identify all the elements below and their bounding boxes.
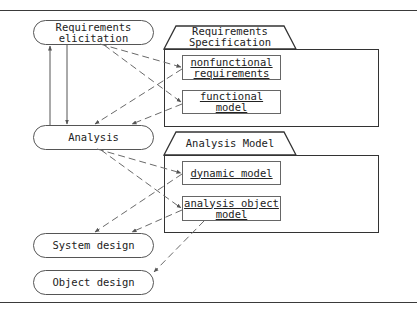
- top-rule: [0, 10, 417, 11]
- analysis-object-model-artifact[interactable]: analysis object model: [182, 196, 281, 221]
- requirements-specification-title: Requirements Specification: [176, 26, 284, 48]
- nonfunctional-requirements-artifact[interactable]: nonfunctional requirements: [182, 55, 281, 80]
- analysis-object-model-line2: model: [216, 209, 248, 220]
- nonfunctional-requirements-line2: requirements: [194, 68, 270, 79]
- analysis-model-title-text: Analysis Model: [176, 138, 284, 149]
- bottom-rule: [0, 302, 417, 303]
- analysis-label: Analysis: [68, 132, 119, 143]
- object-design-activity[interactable]: Object design: [33, 270, 154, 295]
- functional-model-line2: model: [216, 102, 248, 113]
- analysis-object-model-line1: analysis object: [184, 198, 279, 209]
- object-design-label: Object design: [52, 277, 134, 288]
- analysis-activity[interactable]: Analysis: [33, 125, 154, 150]
- dynamic-model-artifact[interactable]: dynamic model: [182, 161, 281, 185]
- development-activities-diagram: Requirements Specification nonfunctional…: [0, 0, 417, 316]
- analysis-model-title: Analysis Model: [176, 138, 284, 149]
- dynamic-model-line1: dynamic model: [190, 168, 272, 179]
- nonfunctional-requirements-line1: nonfunctional: [190, 57, 272, 68]
- system-design-activity[interactable]: System design: [33, 233, 154, 258]
- requirements-elicitation-line2: elicitation: [59, 33, 129, 44]
- functional-model-artifact[interactable]: functional model: [182, 90, 281, 114]
- requirements-elicitation-line1: Requirements: [56, 22, 132, 33]
- requirements-specification-title-line2: Specification: [176, 37, 284, 48]
- requirements-elicitation-activity[interactable]: Requirements elicitation: [33, 20, 154, 45]
- system-design-label: System design: [52, 240, 134, 251]
